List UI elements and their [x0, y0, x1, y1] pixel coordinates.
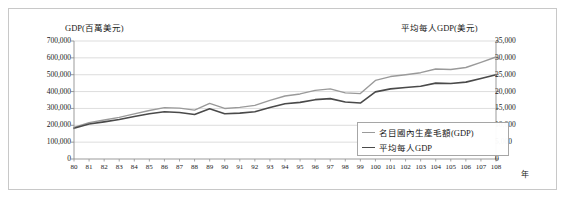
- x-tick-label: 97: [327, 163, 334, 171]
- x-tick-label: 91: [236, 163, 243, 171]
- x-tick-label: 102: [400, 163, 411, 171]
- x-tick-label: 87: [176, 163, 183, 171]
- chart-legend: 名目國內生產毛額(GDP) 平均每人GDP: [357, 122, 509, 156]
- legend-label-gdp: 名目國內生產毛額(GDP): [379, 128, 474, 138]
- x-tick-label: 105: [446, 163, 457, 171]
- chart-plot-area: GDP(百萬美元) 平均每人GDP(美元) 0100,000200,000300…: [9, 9, 558, 191]
- x-tick-label: 92: [251, 163, 258, 171]
- x-tick-label: 93: [266, 163, 273, 171]
- x-tick-label: 104: [430, 163, 441, 171]
- x-tick-label: 98: [342, 163, 349, 171]
- x-tick-label: 101: [385, 163, 396, 171]
- x-tick-label: 86: [161, 163, 168, 171]
- x-tick-label: 106: [461, 163, 472, 171]
- x-axis-ticks: 8081828384858687888990919293949596979899…: [9, 9, 558, 191]
- legend-item: 平均每人GDP: [362, 140, 504, 155]
- x-axis-title: 年: [521, 168, 529, 179]
- x-tick-label: 96: [312, 163, 319, 171]
- x-tick-label: 84: [131, 163, 138, 171]
- legend-swatch-gdp: [362, 132, 375, 133]
- legend-item: 名目國內生產毛額(GDP): [362, 125, 504, 140]
- x-tick-label: 100: [370, 163, 381, 171]
- x-tick-label: 103: [415, 163, 426, 171]
- x-tick-label: 88: [191, 163, 198, 171]
- x-tick-label: 80: [71, 163, 78, 171]
- x-tick-label: 95: [297, 163, 304, 171]
- legend-label-percapita: 平均每人GDP: [379, 143, 432, 153]
- x-tick-label: 108: [491, 163, 502, 171]
- legend-swatch-percapita: [362, 147, 375, 148]
- x-tick-label: 90: [221, 163, 228, 171]
- x-tick-label: 94: [282, 163, 289, 171]
- x-tick-label: 99: [357, 163, 364, 171]
- x-tick-label: 107: [476, 163, 487, 171]
- x-tick-label: 89: [206, 163, 213, 171]
- x-tick-label: 81: [86, 163, 93, 171]
- chart-frame: GDP(百萬美元) 平均每人GDP(美元) 0100,000200,000300…: [8, 8, 557, 190]
- x-tick-label: 82: [101, 163, 108, 171]
- x-tick-label: 83: [116, 163, 123, 171]
- x-tick-label: 85: [146, 163, 153, 171]
